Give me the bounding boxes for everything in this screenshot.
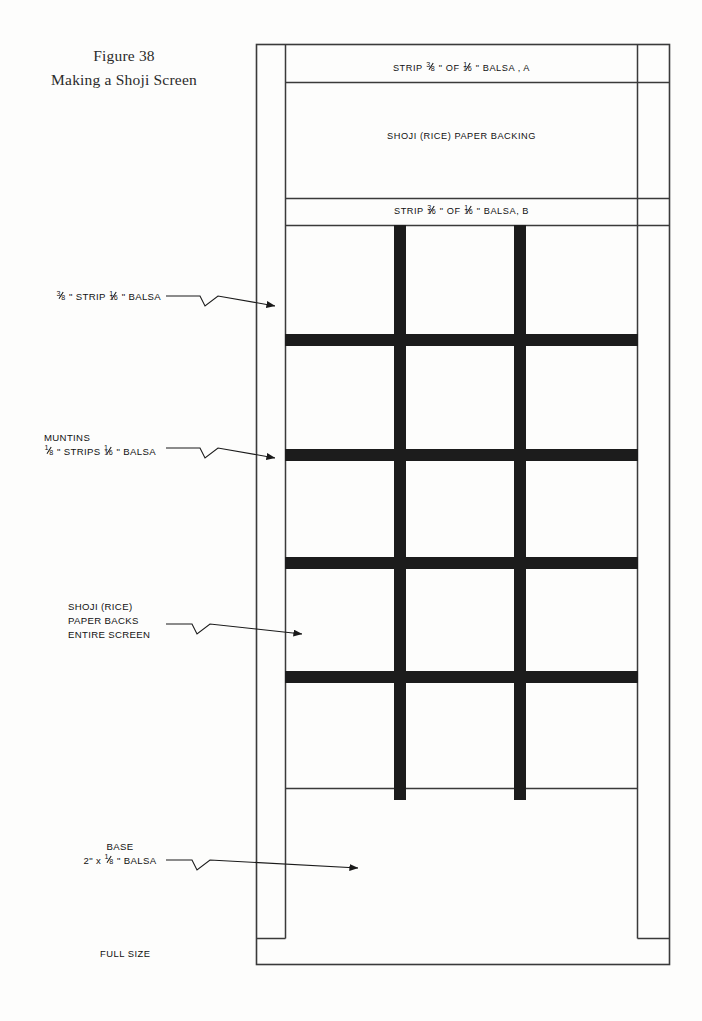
fraction-one-sixteenth-callout: 1 16 — [109, 291, 118, 300]
base-post: " BALSA — [117, 855, 156, 866]
fraction-three-eighths: 3 8 — [426, 62, 435, 71]
leader-base — [166, 860, 358, 870]
second-strip-post: " BALSA, B — [477, 206, 529, 216]
top-strip-post: " BALSA , A — [476, 63, 530, 73]
callout-base: BASE 2" x 1 8 " BALSA — [60, 840, 180, 868]
fraction-three-eighths-callout: 3 8 — [57, 291, 66, 300]
strip-balsa-post: " BALSA — [122, 291, 161, 302]
label-top-strip: STRIP 3 8 " OF 1 16 " BALSA , A — [285, 62, 638, 73]
strip-balsa-mid: " STRIP — [69, 291, 106, 302]
figure-title-line1: Figure 38 — [0, 44, 248, 68]
base-pre: 2" x — [83, 855, 101, 866]
muntin-vertical-right — [514, 225, 526, 800]
paper-backs-line3: ENTIRE SCREEN — [68, 628, 150, 642]
muntins-heading: MUNTINS — [44, 431, 156, 445]
paper-backs-line2: PAPER BACKS — [68, 614, 150, 628]
muntin-vertical-left — [394, 225, 406, 800]
callout-muntins: MUNTINS 1 8 " STRIPS 1 16 " BALSA — [44, 431, 156, 459]
paper-backs-line1: SHOJI (RICE) — [68, 600, 150, 614]
second-strip-mid: " OF — [440, 206, 461, 216]
muntins-post: " BALSA — [117, 446, 156, 457]
muntin-horizontal-3 — [285, 557, 638, 569]
figure-page: Figure 38 Making a Shoji Screen STRIP 3 … — [0, 0, 702, 1021]
base-heading: BASE — [60, 840, 180, 854]
base-spec: 2" x 1 8 " BALSA — [60, 854, 180, 868]
fraction-one-eighth-base: 1 8 — [105, 855, 114, 864]
second-strip-pre: STRIP — [394, 206, 424, 216]
leader-paper-backs — [166, 624, 302, 634]
label-second-strip: STRIP 3 16 " OF 1 16 " BALSA, B — [285, 205, 638, 216]
fraction-one-sixteenth-b: 1 16 — [464, 205, 473, 214]
leader-muntins — [166, 448, 275, 458]
muntin-horizontal-1 — [285, 334, 638, 346]
fraction-one-sixteenth: 1 16 — [463, 62, 472, 71]
muntin-horizontal-2 — [285, 449, 638, 461]
shoji-screen-drawing — [0, 0, 702, 1021]
callout-paper-backs: SHOJI (RICE) PAPER BACKS ENTIRE SCREEN — [68, 600, 150, 642]
top-strip-mid: " OF — [439, 63, 460, 73]
callout-strip-balsa: 3 8 " STRIP 1 16 " BALSA — [56, 290, 161, 304]
muntin-horizontal-4 — [285, 671, 638, 683]
muntins-spec: 1 8 " STRIPS 1 16 " BALSA — [44, 445, 156, 459]
muntins-mid: " STRIPS — [57, 446, 101, 457]
figure-title-line2: Making a Shoji Screen — [0, 68, 248, 92]
leader-strip-balsa — [166, 296, 275, 306]
top-strip-pre: STRIP — [393, 63, 423, 73]
fraction-one-sixteenth-muntin: 1 16 — [104, 446, 113, 455]
outer-frame — [257, 45, 670, 965]
label-paper-backing: SHOJI (RICE) PAPER BACKING — [285, 131, 638, 141]
fraction-one-eighth-muntin: 1 8 — [45, 446, 54, 455]
paper-backing-text: SHOJI (RICE) PAPER BACKING — [387, 131, 536, 141]
fraction-three-sixteenths: 3 16 — [427, 205, 436, 214]
scale-note: FULL SIZE — [100, 948, 151, 959]
figure-caption: Figure 38 Making a Shoji Screen — [0, 44, 248, 92]
